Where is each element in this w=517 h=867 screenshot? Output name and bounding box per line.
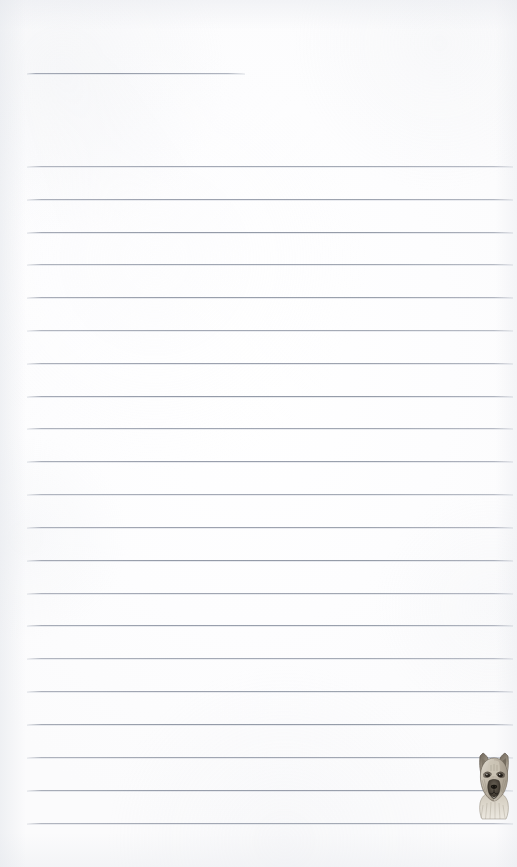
notepad-page (0, 0, 517, 867)
paper-background (0, 0, 517, 867)
